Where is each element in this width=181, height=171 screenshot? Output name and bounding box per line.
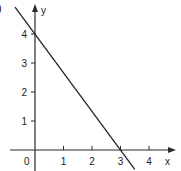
origin-label: 0 bbox=[24, 156, 30, 167]
x-tick-label: 2 bbox=[89, 156, 95, 167]
series-line bbox=[15, 7, 135, 169]
y-tick-label: 4 bbox=[21, 29, 27, 40]
x-tick-label: 3 bbox=[118, 156, 124, 167]
x-tick-label: 4 bbox=[146, 156, 152, 167]
y-axis-arrow-icon bbox=[32, 4, 38, 12]
x-axis-arrow-icon bbox=[168, 147, 176, 153]
chart: ) 12341234 x y 0 bbox=[0, 0, 181, 171]
x-tick-label: 1 bbox=[61, 156, 67, 167]
figure-label-fragment: ) bbox=[0, 2, 2, 14]
axes bbox=[10, 4, 176, 171]
ticks: 12341234 bbox=[21, 29, 152, 167]
y-axis-label: y bbox=[41, 5, 46, 16]
y-tick-label: 1 bbox=[21, 116, 27, 127]
series bbox=[15, 7, 135, 169]
y-tick-label: 2 bbox=[21, 87, 27, 98]
y-tick-label: 3 bbox=[21, 58, 27, 69]
x-axis-label: x bbox=[165, 156, 170, 167]
